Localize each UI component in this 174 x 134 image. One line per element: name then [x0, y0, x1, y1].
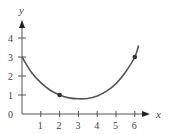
data-point [133, 55, 138, 60]
x-tick-label: 2 [57, 120, 62, 131]
x-tick-label: 4 [94, 120, 99, 131]
y-tick-label: 1 [8, 90, 13, 101]
x-tick-label: 6 [132, 120, 137, 131]
y-axis-label: y [18, 4, 24, 16]
x-tick-label: 5 [113, 120, 118, 131]
x-axis-label: x [155, 108, 161, 120]
chart: xy01234561234 [0, 0, 174, 134]
curve-line [22, 46, 139, 99]
x-tick-label: 3 [75, 120, 80, 131]
origin-label: 0 [8, 109, 13, 120]
y-tick-label: 4 [8, 33, 13, 44]
data-point [57, 93, 62, 98]
y-axis-arrow-icon [19, 20, 25, 28]
y-tick-label: 3 [8, 52, 13, 63]
x-axis-arrow-icon [142, 111, 150, 117]
x-tick-label: 1 [38, 120, 43, 131]
y-tick-label: 2 [8, 71, 13, 82]
